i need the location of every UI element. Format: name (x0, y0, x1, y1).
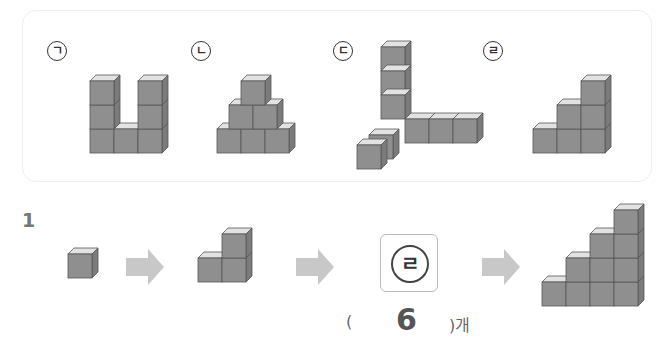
open-paren: ( (346, 312, 352, 331)
figure-label-a: ㄱ (47, 41, 67, 61)
answer-value[interactable]: 6 (396, 302, 417, 337)
figures-panel: ㄱ ㄴ ㄷ ㄹ (22, 10, 652, 182)
arrow-icon (126, 249, 164, 285)
step-4-cubes (540, 196, 650, 316)
figure-b-cubes (211, 51, 321, 161)
arrow-icon (296, 249, 334, 285)
step-1-cubes (66, 244, 106, 284)
figure-c-cubes (353, 21, 503, 181)
figure-label-d: ㄹ (483, 41, 503, 61)
step-2-cubes (196, 226, 266, 296)
figure-label-b: ㄴ (191, 41, 211, 61)
arrow-icon (482, 249, 520, 285)
answer-label: ㄹ (391, 245, 429, 283)
question-number: 1 (22, 209, 35, 231)
figure-a-cubes (67, 51, 177, 161)
answer-count: ( 6 )개 (346, 306, 516, 336)
answer-box[interactable]: ㄹ (380, 234, 438, 292)
figure-d-cubes (523, 51, 633, 161)
close-paren-unit: )개 (449, 312, 470, 336)
figure-label-c: ㄷ (333, 41, 353, 61)
